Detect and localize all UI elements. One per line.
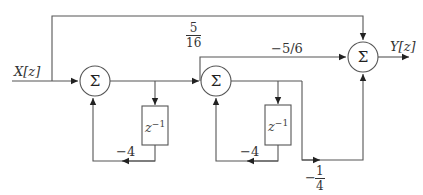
diagram-wires: [0, 0, 423, 195]
delay1-label: z−1: [145, 119, 165, 135]
block-diagram: X[z] Y[z] Σ Σ Σ z−1 z−1 5 16 −5/6 −4 −4 …: [0, 0, 423, 195]
sum2-symbol: Σ: [206, 74, 226, 89]
input-label: X[z]: [14, 65, 40, 78]
delay2-label: z−1: [268, 118, 288, 134]
gain-feedback2: −4: [240, 145, 259, 158]
gain-feedback1: −4: [116, 145, 135, 158]
gain-feedforward: 5 16: [186, 22, 201, 49]
gain-middle: −5/6: [271, 42, 303, 55]
sum1-symbol: Σ: [85, 74, 105, 89]
output-label: Y[z]: [390, 40, 416, 53]
bottom-branch-wire: [302, 74, 363, 160]
sum3-symbol: Σ: [353, 50, 373, 65]
